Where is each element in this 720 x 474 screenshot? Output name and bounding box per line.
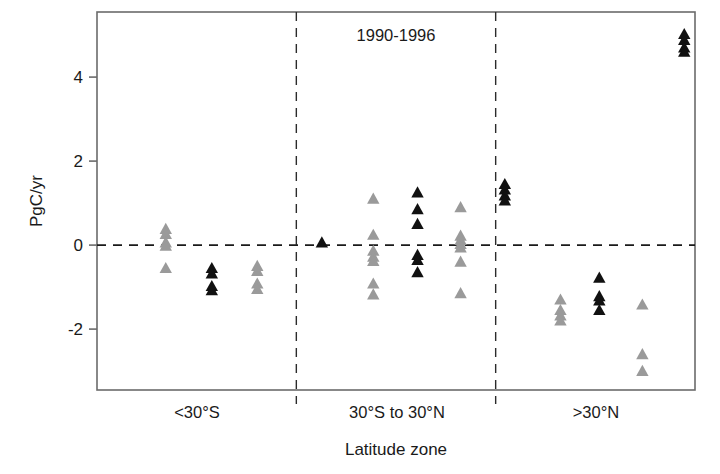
y-tick-label: -2 <box>68 320 83 339</box>
y-tick-label: 0 <box>74 236 83 255</box>
x-axis-title: Latitude zone <box>345 440 447 459</box>
y-tick-label: 4 <box>74 68 83 87</box>
plot-canvas: -2024 PgC/yr 1990-1996 <30°S 30°S to 30°… <box>0 0 720 474</box>
scatter-plot-figure: -2024 PgC/yr 1990-1996 <30°S 30°S to 30°… <box>0 0 720 474</box>
y-tick-label: 2 <box>74 152 83 171</box>
zone-label-north: >30°N <box>573 403 620 421</box>
zone-label-tropics: 30°S to 30°N <box>349 403 445 421</box>
zone-label-south: <30°S <box>174 403 220 421</box>
plot-title: 1990-1996 <box>357 26 436 44</box>
y-axis-title: PgC/yr <box>27 175 46 227</box>
